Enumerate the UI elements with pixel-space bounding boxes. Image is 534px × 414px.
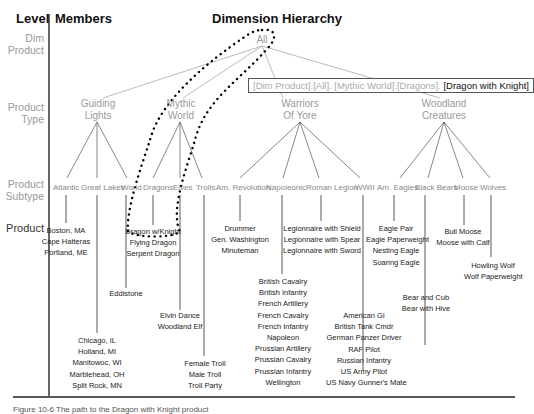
product-item: Prussian Artillery [252,343,314,354]
level-label-line: Subtype [4,190,44,202]
subtype-world: World [121,183,142,192]
figure-caption: Figure 10-6 The path to the Dragon with … [13,405,209,414]
product-item: Boston, MA [36,225,96,236]
level-label-line: Dim [4,32,44,44]
products-world: Eddistone [100,288,152,299]
product-item: US Navy Gunner's Mate [326,377,402,388]
type-label: Warriors [270,98,330,110]
product-item: Chicago, IL [67,335,127,346]
product-item: American GI [326,310,402,321]
product-item: Manitowoc, WI [67,357,127,368]
product-item: Howling Wolf [464,260,522,271]
products-wwii: American GI British Tank Cmdr German Pan… [326,310,402,388]
type-label: Guiding [72,98,124,110]
product-item: British Infantry [252,287,314,298]
product-item: RAF Pilot [326,344,402,355]
product-item: Eagle Paperweight [366,234,426,245]
subtype-atlantic: Atlantic [53,183,79,192]
member-path-highlight: [Dragon with Knight] [443,80,529,91]
products-roman-legion: Legionnaire with Shield Legionnaire with… [282,223,362,257]
products-elves: Elvin Dance Woodland Elf [154,310,206,332]
product-item: Female Troll [180,358,230,369]
member-path-prefix: [Dim Product].[All]. [Mythic World].[Dra… [253,80,443,91]
products-great-lakes: Chicago, IL Holland, MI Manitowoc, WI Ma… [67,335,127,391]
subtype-elves: Elves [173,183,193,192]
subtype-wwii: WWII [355,183,375,192]
product-item: Portland, ME [36,247,96,258]
type-label: World [155,110,207,122]
product-item: Male Troll [180,369,230,380]
dotted-path-highlight [128,30,274,237]
level-label-line: Type [4,113,44,125]
product-item: Eagle Pair [366,223,426,234]
subtype-great-lakes: Great Lakes [81,183,125,192]
level-dim-product: Dim Product [4,32,44,56]
subtype-wolves: Wolves [480,183,506,192]
product-item: British Tank Cmdr [326,321,402,332]
product-item: German Panzer Driver [326,332,402,343]
product-item-dragon-with-knight: Dragon w/Knight [124,226,182,237]
subtype-moose: Moose [454,183,478,192]
type-label: Creatures [412,110,476,122]
product-item: Serpent Dragon [124,248,182,259]
product-item: Cape Hatteras [36,236,96,247]
subtype-dragons: Dragons [143,183,173,192]
product-item: Soaring Eagle [366,257,426,268]
products-napoleonic: British Cavalry British Infantry French … [252,276,314,388]
product-item: Prussian Cavalry [252,354,314,365]
products-atlantic: Boston, MA Cape Hatteras Portland, ME [36,225,96,259]
product-item: Minuteman [208,245,272,256]
type-label: Of Yore [270,110,330,122]
subtype-roman-legion: Roman Legion [306,183,358,192]
product-item: Legionnaire with Spear [282,234,362,245]
product-item: Napoleon [252,332,314,343]
hierarchy-header: Dimension Hierarchy [212,11,342,26]
products-moose: Bull Moose Moose with Calf [434,226,492,248]
products-trolls: Female Troll Male Troll Troll Party [180,358,230,392]
product-item: Troll Party [180,380,230,391]
subtype-napoleonic: Napoleonic [266,183,306,192]
subtype-trolls: Trolls [196,183,215,192]
product-item: Bull Moose [434,226,492,237]
product-item: US Army Pilot [326,366,402,377]
product-item: Gen. Washington [208,234,272,245]
product-item: French Artillery [252,298,314,309]
level-header: Level [16,11,49,26]
type-label: Mythic [155,98,207,110]
product-item: Nesting Eagle [366,245,426,256]
type-warriors-of-yore: Warriors Of Yore [270,98,330,122]
level-product-subtype: Product Subtype [4,178,44,202]
type-mythic-world: Mythic World [155,98,207,122]
type-guiding-lights: Guiding Lights [72,98,124,122]
product-item: Elvin Dance [154,310,206,321]
subtype-black-bears: Black Bears [415,183,458,192]
product-item: Russian Infantry [326,355,402,366]
product-item: Marblehead, OH [67,369,127,380]
products-dragons: Dragon w/Knight Flying Dragon Serpent Dr… [124,226,182,260]
subtype-am-eagles: Am. Eagles [377,183,418,192]
level-label-line: Product [4,101,44,113]
level-label-line: Product [4,44,44,56]
product-item: Moose with Calf [434,237,492,248]
product-item: Drummer [208,223,272,234]
products-am-revolution: Drummer Gen. Washington Minuteman [208,223,272,257]
products-am-eagles: Eagle Pair Eagle Paperweight Nesting Eag… [366,223,426,268]
product-item: Prussian Infantry [252,366,314,377]
product-item: Legionnaire with Shield [282,223,362,234]
products-black-bears: Bear and Cub Bear with Hive [400,292,452,314]
member-path-box: [Dim Product].[All]. [Mythic World].[Dra… [248,78,534,93]
level-label-line: Product [4,178,44,190]
level-product-type: Product Type [4,101,44,125]
product-item: French Cavalry [252,310,314,321]
product-item: French Infantry [252,321,314,332]
member-all: All [250,34,274,46]
type-label: Lights [72,110,124,122]
product-item: Wolf Paperweight [464,271,522,282]
subtype-am-revolution: Am. Revolution [216,183,270,192]
type-label: Woodland [412,98,476,110]
type-woodland-creatures: Woodland Creatures [412,98,476,122]
members-header: Members [55,11,112,26]
product-item: Legionnaire with Sword [282,245,362,256]
product-item: Woodland Elf [154,321,206,332]
products-wolves: Howling Wolf Wolf Paperweight [464,260,522,282]
